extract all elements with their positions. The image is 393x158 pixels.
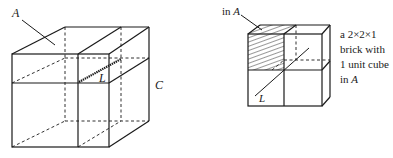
label-L-right: L [259,92,265,104]
hidden-edges [12,27,149,147]
label-in-A: in A [222,5,240,17]
pointer-A [22,20,55,45]
hatched-front [248,34,284,70]
label-A: A [12,6,19,21]
caption-line-1: a 2×2×1 [340,27,389,42]
cube-C [12,20,149,147]
caption-line-4: in A [340,72,389,87]
caption-line-3: 1 unit cube [340,57,389,72]
caption-line-2: brick with [340,42,389,57]
front-face [12,54,109,147]
brick-2x2x1 [241,15,330,106]
label-C: C [155,78,163,93]
caption: a 2×2×1 brick with 1 unit cube in A [340,27,389,87]
pointer-in-A [241,15,262,30]
hatched-top [248,25,296,34]
label-L-left: L [99,71,106,86]
diagram-canvas [0,0,393,158]
